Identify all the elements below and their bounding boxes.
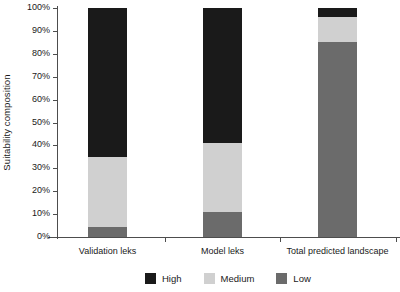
y-axis-tick: 90% (0, 31, 57, 32)
bar-segment-low (203, 212, 242, 237)
bar-segment-low (318, 42, 357, 237)
bar-validation-leks (88, 8, 127, 237)
y-axis-tick: 20% (0, 191, 57, 192)
bar-segment-low (88, 227, 127, 237)
y-axis-tick-label: 20% (32, 184, 50, 197)
legend-label-medium: Medium (221, 272, 255, 285)
legend-item-medium: Medium (204, 272, 255, 285)
y-axis-tick: 70% (0, 77, 57, 78)
y-axis-tick-label: 0% (37, 230, 50, 243)
bar-segment-medium (88, 157, 127, 227)
x-axis-tick-mark (280, 238, 281, 242)
y-axis-tick-label: 60% (32, 93, 50, 106)
y-axis-tick: 10% (0, 214, 57, 215)
chart-legend: HighMediumLow (145, 271, 333, 285)
y-axis-tick-label: 100% (27, 1, 50, 14)
x-axis-label-validation-leks: Validation leks (79, 245, 136, 258)
x-axis-tick-mark (165, 238, 166, 242)
y-axis-tick: 0% (0, 237, 57, 238)
y-axis-tick: 50% (0, 123, 57, 124)
x-axis-line (48, 237, 400, 238)
suitability-composition-chart: Suitability composition 0%10%20%30%40%50… (0, 0, 400, 292)
legend-label-low: Low (293, 272, 310, 285)
bar-segment-medium (318, 17, 357, 42)
y-axis-tick-label: 70% (32, 70, 50, 83)
bar-segment-high (318, 8, 357, 17)
legend-swatch-high (145, 273, 156, 284)
legend-label-high: High (162, 272, 182, 285)
legend-swatch-medium (204, 273, 215, 284)
bar-model-leks (203, 8, 242, 237)
y-axis-tick-label: 80% (32, 47, 50, 60)
x-axis-label-total-predicted-landscape: Total predicted landscape (286, 245, 388, 258)
y-axis-tick: 60% (0, 100, 57, 101)
bar-segment-high (203, 8, 242, 143)
bars-layer (57, 8, 400, 237)
y-axis-tick-label: 10% (32, 207, 50, 220)
legend-item-high: High (145, 272, 182, 285)
bar-segment-high (88, 8, 127, 157)
y-axis-tick: 80% (0, 54, 57, 55)
y-axis-tick: 40% (0, 145, 57, 146)
legend-item-low: Low (276, 272, 310, 285)
y-axis-tick: 30% (0, 168, 57, 169)
y-axis-tick-label: 50% (32, 116, 50, 129)
x-axis-tick-mark (396, 238, 397, 242)
bar-total-predicted-landscape (318, 8, 357, 237)
x-axis-label-model-leks: Model leks (201, 245, 244, 258)
y-axis-tick-label: 40% (32, 138, 50, 151)
legend-swatch-low (276, 273, 287, 284)
y-axis-tick-mark (53, 237, 57, 238)
y-axis-tick-label: 90% (32, 24, 50, 37)
bar-segment-medium (203, 143, 242, 212)
y-axis-tick-label: 30% (32, 161, 50, 174)
y-axis-tick: 100% (0, 8, 57, 9)
